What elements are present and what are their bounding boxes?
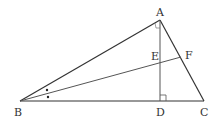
label-point-e: E — [151, 50, 159, 63]
segment-bf — [20, 57, 181, 101]
geometry-diagram: A B C D E F — [0, 0, 224, 125]
label-point-a: A — [155, 6, 165, 19]
label-point-b: B — [14, 106, 22, 119]
right-angle-mark-d — [160, 95, 166, 101]
label-point-c: C — [200, 106, 208, 119]
right-angle-mark-a — [155, 23, 160, 28]
segment-ab — [20, 20, 160, 101]
label-point-f: F — [185, 49, 193, 62]
angle-mark-dot-upper — [46, 89, 48, 91]
angle-mark-dot-lower — [47, 96, 49, 98]
label-point-d: D — [156, 106, 165, 119]
